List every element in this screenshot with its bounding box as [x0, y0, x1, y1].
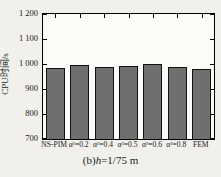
- y-tick-mark: [210, 64, 214, 65]
- x-tick-mark-top: [129, 14, 130, 18]
- bar-α²=0.2: [70, 65, 89, 139]
- x-tick-mark-top: [80, 14, 81, 18]
- bar-α²=0.4: [95, 67, 114, 139]
- y-tick-mark: [43, 39, 47, 40]
- caption-value: =1/75 m: [101, 154, 138, 166]
- y-tick-label: 900: [8, 84, 38, 93]
- y-tick-label: 800: [8, 109, 38, 118]
- y-tick-label: 700: [8, 134, 38, 143]
- y-tick-label: 1 100: [8, 34, 38, 43]
- plot-area: [42, 13, 215, 140]
- x-tick-mark-top: [202, 14, 203, 18]
- y-tick-label: 1 200: [8, 9, 38, 18]
- y-tick-mark: [43, 64, 47, 65]
- bar-α²=0.8: [168, 67, 187, 140]
- x-tick-mark-top: [177, 14, 178, 18]
- y-tick-mark: [210, 39, 214, 40]
- bar-chart-figure: CPU时间/s 7008009001 0001 1001 200 NS-PIMα…: [0, 0, 221, 177]
- y-tick-mark: [210, 14, 214, 15]
- caption-prefix: (b): [83, 154, 96, 166]
- y-tick-label: 1 000: [8, 59, 38, 68]
- y-axis-title: CPU时间/s: [0, 43, 10, 105]
- bar-NS-PIM: [46, 68, 65, 139]
- bar-α²=0.6: [143, 64, 162, 139]
- x-tick-label: FEM: [183, 140, 219, 149]
- bar-FEM: [192, 69, 211, 139]
- x-tick-mark-top: [55, 14, 56, 18]
- y-tick-mark: [43, 14, 47, 15]
- bar-α²=0.5: [119, 66, 138, 139]
- x-tick-mark-top: [153, 14, 154, 18]
- chart-caption: (b)h=1/75 m: [0, 154, 221, 167]
- x-tick-mark-top: [104, 14, 105, 18]
